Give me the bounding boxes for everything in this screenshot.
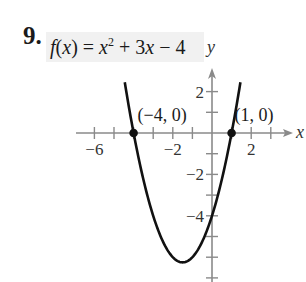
- x-axis-label: x: [295, 122, 304, 142]
- x-intercept-label: (−4, 0): [138, 105, 187, 126]
- y-axis-label: y: [205, 37, 215, 57]
- x-tick-label: 2: [247, 140, 256, 159]
- x-intercept-point: [227, 129, 236, 138]
- x-tick-label: −6: [85, 140, 103, 159]
- parabola-graph: xy−6−222−2−4(−4, 0)(1, 0): [0, 0, 306, 282]
- x-intercept-label: (1, 0): [235, 105, 274, 126]
- y-tick-label: 2: [196, 83, 205, 102]
- x-intercept-point: [129, 129, 138, 138]
- y-tick-label: −4: [186, 207, 205, 226]
- x-tick-label: −2: [164, 140, 182, 159]
- y-tick-label: −2: [186, 165, 204, 184]
